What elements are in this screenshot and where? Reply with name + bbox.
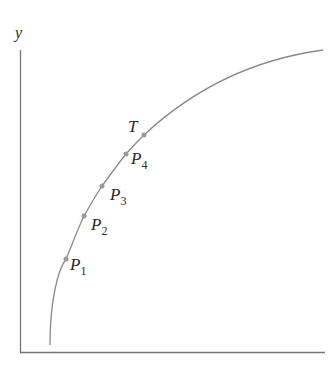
label-p1: P1 <box>69 255 86 278</box>
point-p3-dot <box>100 184 105 189</box>
label-p2: P2 <box>90 215 107 238</box>
label-t: T <box>128 117 139 136</box>
point-t-dot <box>142 133 147 138</box>
label-p4: P4 <box>130 149 147 172</box>
point-p2-dot <box>82 214 87 219</box>
label-p3: P3 <box>109 185 126 208</box>
point-p4-dot <box>124 152 129 157</box>
function-curve <box>50 50 323 345</box>
point-p1-dot <box>64 257 69 262</box>
y-axis-label: y <box>13 24 23 42</box>
secant-tangent-diagram: y P1 P2 P3 P4 T <box>0 0 335 373</box>
